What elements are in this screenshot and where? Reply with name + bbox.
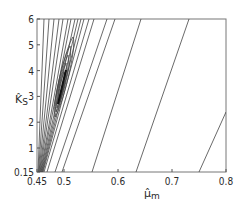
contour-chart: 0.450.50.60.70.8 0.15123456 μ̂m K̂S [0, 0, 242, 201]
axis-ticks [37, 19, 226, 172]
x-tick-label: 0.5 [57, 176, 71, 187]
contour-line [199, 112, 226, 172]
contour-lines [38, 19, 226, 172]
contour-line [136, 19, 189, 172]
x-tick-labels: 0.450.50.60.70.8 [27, 176, 233, 187]
y-tick-label: 5 [28, 40, 34, 51]
y-tick-label: 6 [28, 14, 34, 25]
y-tick-label: 3 [28, 91, 34, 102]
x-tick-label: 0.6 [111, 176, 126, 187]
plot-frame [37, 19, 226, 172]
y-tick-label: 0.15 [14, 167, 34, 178]
y-tick-label: 2 [28, 117, 34, 128]
y-axis-label: K̂S [15, 93, 28, 107]
y-tick-label: 4 [28, 66, 34, 77]
x-tick-label: 0.7 [165, 176, 179, 187]
x-axis-label: μ̂m [144, 187, 160, 201]
y-tick-label: 1 [28, 143, 34, 154]
x-tick-label: 0.8 [219, 176, 234, 187]
